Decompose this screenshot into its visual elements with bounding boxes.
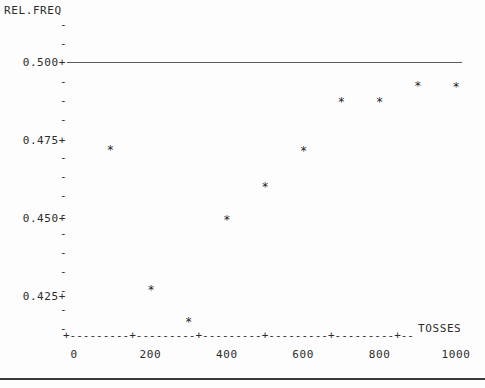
data-point-marker: * — [223, 214, 230, 226]
y-axis-tick-label: 0.475+ — [8, 134, 66, 147]
y-axis-tick-label: 0.450+ — [8, 212, 66, 225]
data-point-marker: * — [414, 80, 421, 92]
y-axis-minor-tick: - — [60, 246, 67, 259]
x-axis-tick-label: 0 — [70, 348, 77, 361]
data-point-marker: * — [107, 144, 114, 156]
data-point-marker: * — [148, 284, 155, 296]
y-axis-minor-tick: - — [60, 37, 67, 50]
chart-canvas: REL.FREQ TOSSES --------------- 0.500+0.… — [0, 0, 485, 388]
data-point-marker: * — [338, 96, 345, 108]
y-axis-minor-tick: - — [60, 227, 67, 240]
x-axis-tick-label: 200 — [140, 348, 162, 361]
y-axis-tick-label: 0.425+ — [8, 290, 66, 303]
y-axis-minor-tick: - — [60, 303, 67, 316]
x-axis-tick-label: 800 — [369, 348, 391, 361]
data-point-marker: * — [300, 145, 307, 157]
bottom-divider — [0, 378, 485, 380]
y-axis-minor-tick: - — [60, 113, 67, 126]
y-axis-title: REL.FREQ — [4, 4, 62, 17]
y-axis-minor-tick: - — [60, 18, 67, 31]
data-point-marker: * — [185, 316, 192, 328]
y-axis-minor-tick: - — [60, 170, 67, 183]
data-point-marker: * — [376, 96, 383, 108]
x-axis-title: TOSSES — [418, 322, 461, 335]
x-axis-tick-label: 400 — [216, 348, 238, 361]
y-axis-minor-tick: - — [60, 151, 67, 164]
data-point-marker: * — [452, 81, 459, 93]
y-axis-minor-tick: - — [60, 94, 67, 107]
x-axis-line: +---------+---------+---------+---------… — [63, 330, 414, 341]
reference-line-0500 — [67, 62, 462, 63]
y-axis-minor-tick: - — [60, 189, 67, 202]
x-axis-tick-label: 600 — [292, 348, 314, 361]
y-axis-minor-tick: - — [60, 75, 67, 88]
y-axis-tick-label: 0.500+ — [8, 56, 66, 69]
data-point-marker: * — [261, 181, 268, 193]
y-axis-minor-tick: - — [60, 265, 67, 278]
x-axis-tick-label: 1000 — [442, 348, 471, 361]
